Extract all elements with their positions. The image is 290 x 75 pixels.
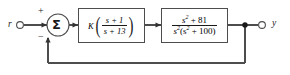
controller-gain-label: K bbox=[88, 21, 94, 31]
left-paren-icon: ( bbox=[96, 18, 101, 33]
plant-numerator-rest: + 81 bbox=[188, 15, 207, 25]
controller-fraction: s + 1 s + 13 bbox=[102, 16, 127, 35]
arrowhead-into-summer-minus bbox=[45, 37, 50, 43]
controller-denominator: s + 13 bbox=[102, 26, 127, 35]
plant-block[interactable]: s2 + 81 s2(s2 + 100) bbox=[161, 8, 228, 43]
controller-block-content: K ( s + 1 s + 13 ) bbox=[79, 9, 144, 42]
block-diagram: r y Σ + − K ( s + 1 s + 13 ) s2 + 81 bbox=[0, 0, 290, 75]
summing-junction-symbol: Σ bbox=[52, 18, 61, 31]
output-signal-label: y bbox=[272, 19, 276, 29]
right-paren-icon: ) bbox=[129, 18, 134, 33]
summer-plus-sign: + bbox=[38, 6, 44, 16]
input-terminal-circle bbox=[17, 22, 24, 29]
plant-numerator: s2 + 81 bbox=[180, 16, 208, 26]
plant-denominator-close: + 100) bbox=[189, 26, 215, 36]
plant-denominator: s2(s2 + 100) bbox=[172, 26, 217, 36]
output-takeoff-node bbox=[242, 22, 247, 27]
controller-block[interactable]: K ( s + 1 s + 13 ) bbox=[78, 8, 145, 43]
arrowhead-into-summer-plus bbox=[42, 22, 48, 27]
controller-expression: K ( s + 1 s + 13 ) bbox=[88, 16, 135, 35]
plant-fraction: s2 + 81 s2(s2 + 100) bbox=[172, 16, 217, 36]
controller-numerator: s + 1 bbox=[104, 16, 125, 25]
summer-minus-sign: − bbox=[38, 32, 44, 42]
output-terminal-circle bbox=[259, 22, 266, 29]
input-signal-label: r bbox=[8, 20, 12, 30]
plant-block-content: s2 + 81 s2(s2 + 100) bbox=[162, 9, 227, 42]
